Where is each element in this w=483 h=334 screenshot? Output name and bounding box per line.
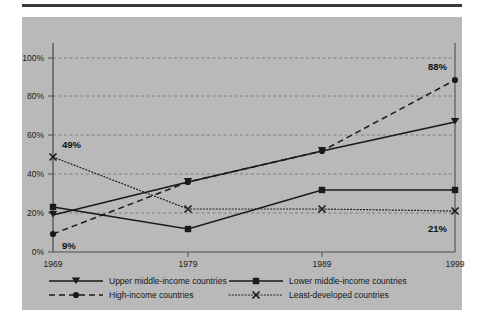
series-markers-upper-middle-income bbox=[49, 118, 459, 218]
legend-marker-square-icon bbox=[253, 278, 259, 284]
legend-item-upper-middle-income[interactable]: Upper middle-income countries bbox=[49, 276, 227, 286]
legend-label-high-income: High-income countries bbox=[109, 290, 194, 300]
legend-item-least-developed[interactable]: Least-developed countries bbox=[229, 290, 389, 300]
x-tick-label-1999: 1999 bbox=[446, 259, 465, 269]
x-tick-label-1989: 1989 bbox=[313, 259, 332, 269]
y-tick-label-60: 60% bbox=[27, 130, 44, 140]
legend-label-lower-middle-income: Lower middle-income countries bbox=[289, 276, 407, 286]
annotation-88-percent: 88% bbox=[428, 61, 448, 72]
series-markers-least-developed bbox=[50, 154, 459, 215]
marker-square-1989 bbox=[319, 187, 325, 193]
legend-item-high-income[interactable]: High-income countries bbox=[49, 290, 194, 300]
marker-square-1999 bbox=[452, 187, 458, 193]
marker-triangle-1999 bbox=[451, 118, 459, 125]
series-lower-middle-income-countries bbox=[50, 187, 458, 232]
y-tick-label-40: 40% bbox=[27, 169, 44, 179]
series-least-developed-countries bbox=[50, 154, 459, 215]
y-tick-label-100: 100% bbox=[22, 53, 44, 63]
marker-circle-1999 bbox=[452, 77, 458, 83]
x-tick-label-1969: 1969 bbox=[44, 259, 63, 269]
annotation-9-percent: 9% bbox=[62, 240, 76, 251]
legend-item-lower-middle-income[interactable]: Lower middle-income countries bbox=[229, 276, 407, 286]
line-chart: 100% 80% 60% 40% 20% 0% 1969 1979 1989 1… bbox=[0, 0, 483, 334]
y-tick-label-20: 20% bbox=[27, 208, 44, 218]
series-upper-middle-income-countries bbox=[49, 118, 459, 218]
y-tick-label-0: 0% bbox=[32, 247, 45, 257]
figure-container: 100% 80% 60% 40% 20% 0% 1969 1979 1989 1… bbox=[0, 0, 483, 334]
series-line-least-developed bbox=[53, 157, 455, 211]
legend-label-upper-middle-income: Upper middle-income countries bbox=[109, 276, 227, 286]
x-tick-label-1979: 1979 bbox=[179, 259, 198, 269]
series-line-high-income bbox=[53, 80, 455, 234]
legend-label-least-developed: Least-developed countries bbox=[289, 290, 389, 300]
series-line-upper-middle-income bbox=[53, 122, 455, 215]
legend-marker-circle-icon bbox=[73, 292, 79, 298]
annotation-21-percent: 21% bbox=[428, 223, 448, 234]
axes bbox=[48, 43, 455, 257]
marker-circle-1969 bbox=[50, 231, 56, 237]
marker-square-1969 bbox=[50, 204, 56, 210]
marker-square-1979 bbox=[185, 226, 191, 232]
annotation-49-percent: 49% bbox=[62, 139, 82, 150]
series-line-lower-middle-income bbox=[53, 190, 455, 229]
chart-legend: Upper middle-income countries Lower midd… bbox=[49, 276, 407, 300]
y-tick-label-80: 80% bbox=[27, 91, 44, 101]
